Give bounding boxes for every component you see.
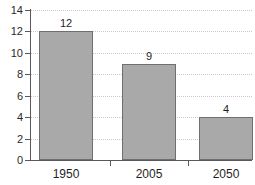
y-tick-mark-2 — [25, 139, 30, 140]
y-tick-mark-0 — [25, 160, 30, 161]
y-tick-mark-12 — [25, 31, 30, 32]
y-axis-line — [30, 9, 31, 161]
x-tick-mark-boundary-2 — [188, 160, 189, 166]
plot-area: 12 9 4 — [30, 10, 252, 160]
x-axis-label-2050: 2050 — [213, 167, 240, 181]
x-tick-mark-boundary-1 — [110, 160, 111, 166]
x-axis-line — [29, 160, 252, 161]
bar-value-2005: 9 — [146, 50, 152, 62]
gridline-14 — [30, 10, 252, 11]
y-tick-mark-8 — [25, 74, 30, 75]
bar-2050[interactable]: 4 — [199, 117, 253, 160]
y-tick-label-0: 0 — [0, 154, 23, 166]
y-tick-mark-4 — [25, 117, 30, 118]
bar-value-1950: 12 — [60, 17, 72, 29]
bar-1950[interactable]: 12 — [39, 31, 93, 160]
y-tick-label-10: 10 — [0, 47, 23, 59]
y-tick-label-4: 4 — [0, 111, 23, 123]
x-axis-label-1950: 1950 — [53, 167, 80, 181]
y-tick-mark-14 — [25, 10, 30, 11]
y-tick-label-2: 2 — [0, 133, 23, 145]
y-tick-mark-6 — [25, 96, 30, 97]
y-tick-label-14: 14 — [0, 4, 23, 16]
x-axis-label-2005: 2005 — [136, 167, 163, 181]
y-tick-label-6: 6 — [0, 90, 23, 102]
y-tick-label-8: 8 — [0, 68, 23, 80]
y-tick-mark-10 — [25, 53, 30, 54]
bar-value-2050: 4 — [223, 103, 229, 115]
bar-2005[interactable]: 9 — [122, 64, 176, 160]
y-tick-label-12: 12 — [0, 25, 23, 37]
bar-chart: 12 9 4 14 12 10 8 6 4 2 0 — [0, 0, 255, 185]
